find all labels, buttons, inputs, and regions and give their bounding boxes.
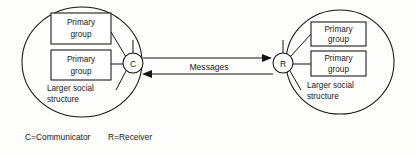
legend-item-receiver: R=Receiver <box>108 132 152 142</box>
primary-group-label-line1: Primary <box>67 55 96 64</box>
messages-channel: Messages <box>142 54 273 78</box>
legend-item-communicator: C=Communicator <box>25 132 91 142</box>
diagram-canvas: Primary group Primary group Larger socia… <box>0 0 415 155</box>
primary-group-label-line2: group <box>71 30 92 39</box>
receiver-node-label: R <box>280 59 286 69</box>
arrow-head-left <box>142 70 152 78</box>
primary-group-label-line2: group <box>328 65 349 74</box>
primary-group-label-line2: group <box>328 35 349 44</box>
arrow-head-right <box>262 54 272 62</box>
communicator-cluster: Primary group Primary group Larger socia… <box>22 7 143 117</box>
primary-group-box-right-1: Primary group <box>311 22 366 46</box>
receiver-node: R <box>273 53 293 73</box>
primary-group-label-line1: Primary <box>324 54 353 63</box>
larger-social-structure-label-left-line2: structure <box>47 95 79 104</box>
connector-right-node-to-structure <box>290 71 301 90</box>
communicator-node: C <box>123 53 143 73</box>
larger-social-structure-label-right-line1: Larger social <box>307 81 354 90</box>
primary-group-label-line1: Primary <box>67 18 96 27</box>
connector-right-node-to-group1 <box>290 34 311 57</box>
primary-group-box-right-2: Primary group <box>311 51 366 76</box>
legend: C=Communicator R=Receiver <box>25 132 152 142</box>
primary-group-label-line1: Primary <box>324 25 353 34</box>
figure-container: Primary group Primary group Larger socia… <box>0 0 415 155</box>
connector-left-node-to-structure <box>116 71 126 90</box>
receiver-cluster: Primary group Primary group Larger socia… <box>273 10 394 114</box>
larger-social-structure-label-left-line1: Larger social <box>47 84 94 93</box>
larger-social-structure-label-right-line2: structure <box>307 92 339 101</box>
primary-group-box-left-1: Primary group <box>51 13 111 44</box>
connector-left-group1-to-node <box>111 32 126 57</box>
primary-group-box-left-2: Primary group <box>51 50 111 80</box>
communicator-node-label: C <box>130 59 136 69</box>
messages-label: Messages <box>189 62 228 72</box>
primary-group-label-line2: group <box>71 67 92 76</box>
